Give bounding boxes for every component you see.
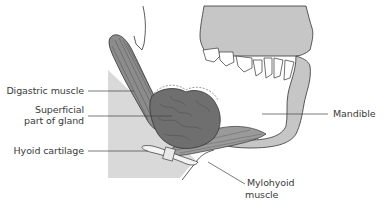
neck-outline <box>134 6 145 50</box>
label-mandible: Mandible <box>333 108 375 119</box>
label-mylohyoid-line1: Mylohyoid <box>247 177 295 188</box>
label-superficial-part-line2: part of gland <box>0 115 84 126</box>
label-digastric-muscle: Digastric muscle <box>0 85 84 96</box>
label-superficial-part-line1: Superficial <box>0 104 84 115</box>
label-hyoid-cartilage: Hyoid cartilage <box>0 145 84 156</box>
label-mylohyoid-line2: muscle <box>245 189 278 200</box>
